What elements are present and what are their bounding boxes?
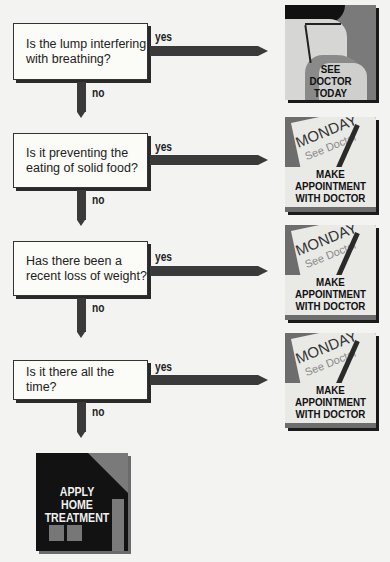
yes-arrow [150,155,258,165]
caption-line: TREATMENT [42,512,112,525]
caption-line: WITH DOCTOR [292,192,369,204]
no-arrow [77,190,86,220]
caption-line: WITH DOCTOR [292,408,369,420]
make-appointment-icon: MONDAY See Doctor MAKE APPOINTMENT WITH … [285,117,376,212]
caption-line: APPOINTMENT [292,180,369,192]
caption-line: MAKE [292,384,369,396]
caption-line: TODAY [292,87,369,99]
question-text-line2: recent loss of weight? [26,269,147,284]
make-appointment-icon: MONDAY See Doctor MAKE APPOINTMENT WITH … [285,333,376,428]
caption-line: DOCTOR [292,75,369,87]
no-arrow [77,82,86,112]
question-text-line1: Is it there all the time? [26,365,147,395]
question-text-line1: Is it preventing the [26,146,138,161]
no-label: no [92,405,104,419]
yes-arrow [150,266,258,276]
yes-label: yes [155,140,172,154]
see-doctor-today-icon: SEE DOCTOR TODAY [285,5,376,100]
yes-label: yes [155,30,172,44]
caption-line: APPOINTMENT [292,288,369,300]
apply-home-treatment-icon: APPLY HOME TREATMENT [36,453,128,551]
question-text-line2: with breathing? [26,52,146,67]
no-arrow [77,298,86,332]
question-box-breathing: Is the lump interfering with breathing? [13,23,148,80]
question-text-line2: eating of solid food? [26,161,138,176]
make-appointment-icon: MONDAY See Doctor MAKE APPOINTMENT WITH … [285,225,376,320]
caption-line: SEE [292,63,369,75]
no-label: no [92,193,104,207]
no-label: no [92,86,104,100]
question-box-all-the-time: Is it there all the time? [13,360,148,400]
caption-line: APPOINTMENT [292,396,369,408]
yes-arrow [150,375,258,385]
yes-arrow [150,46,258,56]
no-label: no [92,301,104,315]
question-box-solid-food: Is it preventing the eating of solid foo… [13,133,148,188]
caption-line: WITH DOCTOR [292,300,369,312]
question-box-weight-loss: Has there been a recent loss of weight? [13,241,148,296]
caption-line: MAKE [292,168,369,180]
yes-label: yes [155,360,172,374]
no-arrow [77,402,86,432]
question-text-line1: Is the lump interfering [26,37,146,52]
yes-label: yes [155,250,172,264]
caption-line: MAKE [292,276,369,288]
question-text-line1: Has there been a [26,254,147,269]
